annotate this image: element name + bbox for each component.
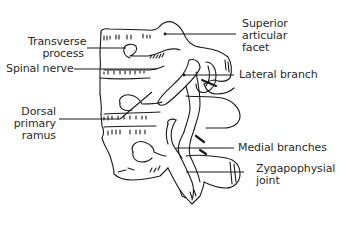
label-transverse-process: Transverse process [28, 36, 84, 60]
label-dorsal-primary-ramus: Dorsal primary ramus [10, 106, 56, 142]
label-superior-articular-facet: Superior articular facet [242, 18, 288, 54]
medial-branch-path [178, 132, 193, 200]
anatomy-diagram: Transverse process Spinal nerve Dorsal p… [0, 0, 340, 231]
label-zygapophysial-joint: Zygapophysial joint [256, 163, 335, 187]
label-spinal-nerve: Spinal nerve [6, 63, 72, 75]
label-lateral-branch: Lateral branch [239, 69, 318, 81]
label-medial-branches: Medial branches [238, 142, 327, 154]
